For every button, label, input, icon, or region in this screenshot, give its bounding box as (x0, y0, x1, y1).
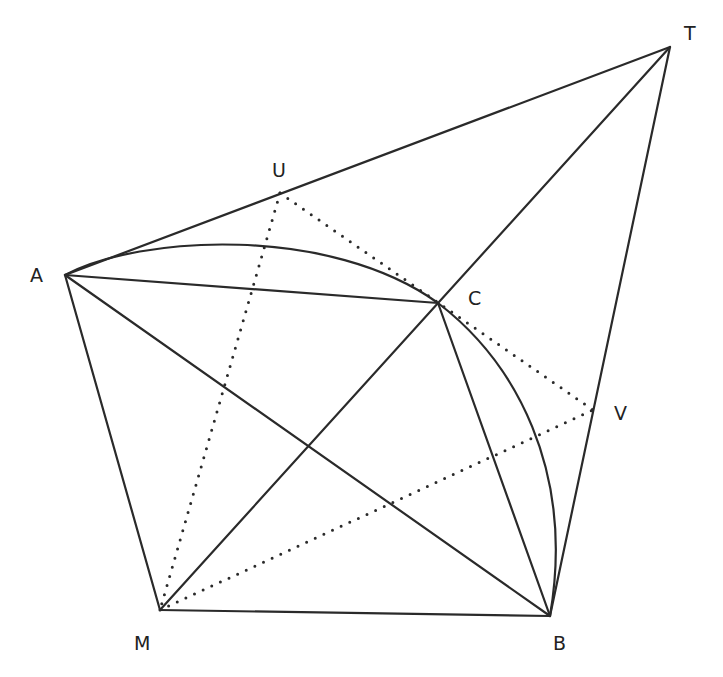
segment-tm (160, 47, 670, 610)
dotted-segment-mv (160, 410, 593, 610)
point-label-u: U (272, 159, 286, 181)
segment-am (65, 275, 160, 610)
segment-tb (550, 47, 670, 616)
dotted-segment-um (160, 193, 280, 610)
point-label-v: V (614, 402, 627, 424)
point-label-c: C (468, 287, 481, 309)
dotted-segment-uv (280, 193, 593, 410)
segment-cb (438, 303, 550, 616)
point-label-m: M (134, 632, 150, 654)
segment-ac (65, 275, 438, 303)
geometry-diagram: A T U C V M B (0, 0, 723, 677)
segment-mb (160, 610, 550, 616)
segment-at (65, 47, 670, 275)
point-label-a: A (30, 264, 43, 286)
point-label-t: T (683, 22, 696, 44)
arc-acb (65, 244, 556, 616)
segment-ab (65, 275, 550, 616)
point-label-b: B (553, 632, 566, 654)
diagram-svg: A T U C V M B (0, 0, 723, 677)
